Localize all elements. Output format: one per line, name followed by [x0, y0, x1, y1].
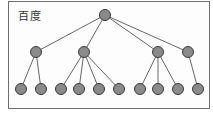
- leaf-node: [56, 84, 67, 95]
- level1-node: [183, 47, 194, 58]
- root-node: [100, 10, 111, 21]
- leaf-node: [153, 84, 164, 95]
- level1-node: [153, 47, 164, 58]
- leaf-node: [74, 84, 85, 95]
- level1-node: [79, 47, 90, 58]
- tree-edge: [105, 15, 158, 52]
- leaf-node: [16, 84, 27, 95]
- level1-node: [31, 47, 42, 58]
- leaf-node: [94, 84, 105, 95]
- tree-diagram: [0, 0, 213, 119]
- tree-edge: [140, 52, 158, 89]
- tree-edge: [158, 52, 178, 89]
- tree-edge: [105, 15, 188, 52]
- leaf-node: [36, 84, 47, 95]
- tree-edge: [84, 52, 119, 89]
- leaf-node: [135, 84, 146, 95]
- leaf-node: [173, 84, 184, 95]
- leaf-node: [193, 84, 204, 95]
- leaf-node: [114, 84, 125, 95]
